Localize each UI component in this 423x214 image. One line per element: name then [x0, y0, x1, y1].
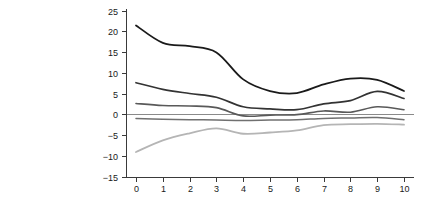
- y-tick-label: −5: [108, 131, 118, 141]
- x-tick-label: 0: [134, 184, 139, 194]
- y-tick-label: −10: [103, 152, 118, 162]
- y-tick-label: 0: [113, 110, 118, 120]
- y-tick-label: 5: [113, 90, 118, 100]
- y-tick-label: 20: [108, 27, 118, 37]
- x-tick-label: 9: [375, 184, 380, 194]
- x-tick-label: 4: [241, 184, 246, 194]
- x-tick-label: 7: [322, 184, 327, 194]
- x-tick-label: 2: [188, 184, 193, 194]
- x-tick-label: 1: [161, 184, 166, 194]
- x-tick-label: 3: [214, 184, 219, 194]
- y-tick-label: 15: [108, 48, 118, 58]
- x-tick-label: 5: [268, 184, 273, 194]
- x-tick-label: 10: [399, 184, 409, 194]
- x-tick-label: 8: [348, 184, 353, 194]
- y-tick-label: 10: [108, 69, 118, 79]
- x-tick-label: 6: [295, 184, 300, 194]
- y-tick-label: 25: [108, 7, 118, 17]
- y-tick-label: −15: [103, 173, 118, 183]
- roic-wacc-line-chart: 2520151050−5−10−15 012345678910: [0, 0, 423, 214]
